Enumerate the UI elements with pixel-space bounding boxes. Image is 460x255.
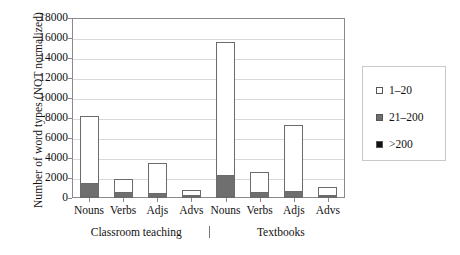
bar-group bbox=[243, 18, 277, 198]
bar-group bbox=[106, 18, 140, 198]
x-tick-mark bbox=[328, 198, 329, 202]
bar-stack[interactable] bbox=[148, 163, 167, 199]
y-tick-label: 2000 bbox=[22, 172, 68, 184]
bar-group bbox=[174, 18, 208, 198]
bar-group bbox=[311, 18, 345, 198]
x-tick-label: Advs bbox=[311, 203, 345, 217]
group-label-classroom-teaching: Classroom teaching bbox=[72, 224, 201, 240]
bar-stack[interactable] bbox=[182, 190, 201, 198]
bar-group bbox=[140, 18, 174, 198]
y-tick-label: 14000 bbox=[22, 52, 68, 64]
x-tick-mark bbox=[157, 198, 158, 202]
x-tick-mark bbox=[191, 198, 192, 202]
bar-stack[interactable] bbox=[318, 187, 337, 198]
bar-segment[interactable] bbox=[284, 125, 303, 191]
bar-stack[interactable] bbox=[80, 116, 99, 199]
group-separator-icon bbox=[209, 226, 210, 238]
y-tick-label: 12000 bbox=[22, 72, 68, 84]
legend-label: 21–200 bbox=[389, 112, 424, 123]
group-labels: Classroom teachingTextbooks bbox=[72, 224, 345, 242]
bar-segment[interactable] bbox=[148, 163, 167, 193]
y-tick-label: 0 bbox=[22, 192, 68, 204]
x-tick-label: Adjs bbox=[277, 203, 311, 217]
bar-group bbox=[209, 18, 243, 198]
legend-item[interactable]: 1–20 bbox=[376, 85, 412, 96]
legend-swatch-icon bbox=[376, 141, 383, 148]
x-tick-label: Nouns bbox=[209, 203, 243, 217]
legend-item[interactable]: 21–200 bbox=[376, 112, 424, 123]
x-tick-mark bbox=[260, 198, 261, 202]
x-tick-mark bbox=[294, 198, 295, 202]
legend-item[interactable]: >200 bbox=[376, 139, 413, 150]
y-axis-ticks: 0200040006000800010000120001400016000180… bbox=[18, 18, 68, 198]
legend-swatch-icon bbox=[376, 87, 383, 94]
bar-stack[interactable] bbox=[216, 42, 235, 198]
y-tick-label: 10000 bbox=[22, 92, 68, 104]
x-tick-mark bbox=[226, 198, 227, 202]
x-tick-label: Verbs bbox=[243, 203, 277, 217]
chart-legend: 1–2021–200>200 bbox=[362, 66, 446, 161]
x-tick-label: Nouns bbox=[72, 203, 106, 217]
x-tick-mark bbox=[123, 198, 124, 202]
x-tick-mark bbox=[89, 198, 90, 202]
bar-stack[interactable] bbox=[250, 172, 269, 198]
bar-segment[interactable] bbox=[216, 42, 235, 175]
bars-layer bbox=[72, 18, 345, 198]
bar-group bbox=[277, 18, 311, 198]
x-tick-label: Verbs bbox=[106, 203, 140, 217]
x-axis-labels: NounsVerbsAdjsAdvsNounsVerbsAdjsAdvs bbox=[72, 203, 345, 219]
bar-segment[interactable] bbox=[318, 187, 337, 195]
legend-label: >200 bbox=[389, 139, 413, 150]
bar-segment[interactable] bbox=[114, 179, 133, 192]
bar-group bbox=[72, 18, 106, 198]
group-label-textbooks: Textbooks bbox=[217, 224, 346, 240]
bar-segment[interactable] bbox=[216, 175, 235, 196]
x-tick-label: Adjs bbox=[140, 203, 174, 217]
y-tick-label: 4000 bbox=[22, 152, 68, 164]
y-tick-label: 16000 bbox=[22, 32, 68, 44]
y-tick-label: 18000 bbox=[22, 12, 68, 24]
bar-segment[interactable] bbox=[80, 183, 99, 197]
bar-segment[interactable] bbox=[250, 172, 269, 192]
bar-stack[interactable] bbox=[284, 125, 303, 198]
legend-swatch-icon bbox=[376, 114, 383, 121]
y-tick-label: 6000 bbox=[22, 132, 68, 144]
chart-figure: Number of word types (NOT normalized) 02… bbox=[0, 0, 460, 255]
y-tick-label: 8000 bbox=[22, 112, 68, 124]
bar-segment[interactable] bbox=[80, 116, 99, 183]
bar-stack[interactable] bbox=[114, 179, 133, 198]
x-tick-label: Advs bbox=[174, 203, 208, 217]
legend-label: 1–20 bbox=[389, 85, 412, 96]
